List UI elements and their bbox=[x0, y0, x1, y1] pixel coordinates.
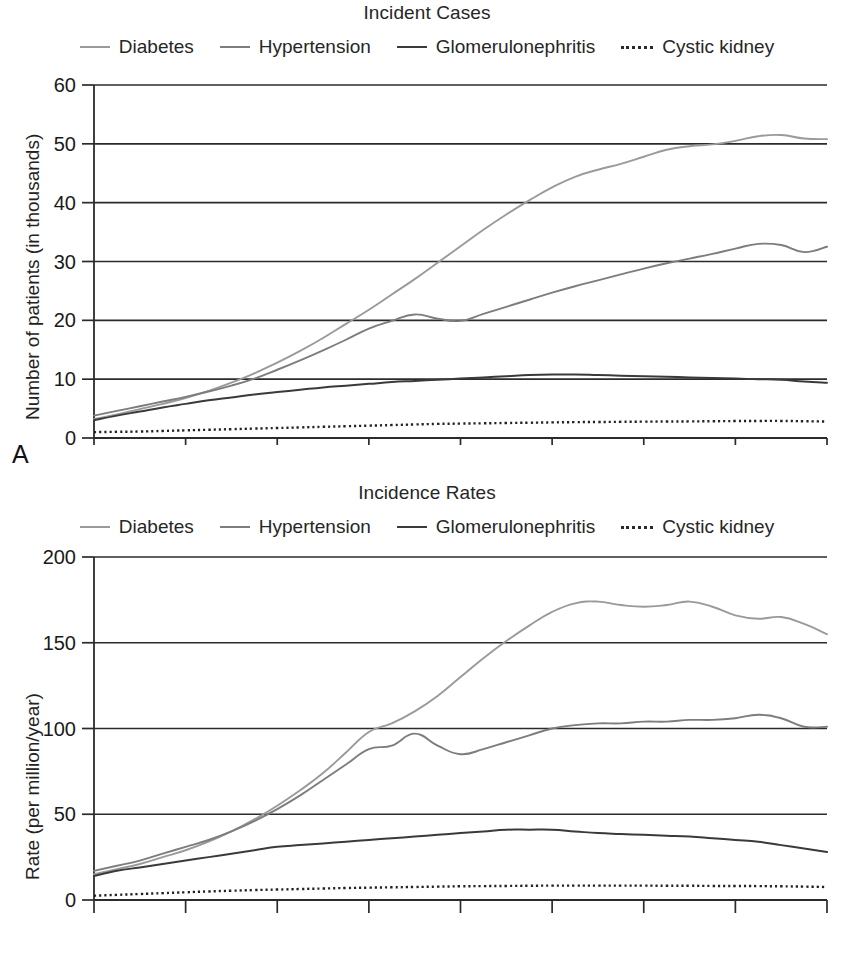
y-tick-label-150: 150 bbox=[43, 632, 76, 654]
legend-label-glomerulonephritis: Glomerulonephritis bbox=[436, 36, 595, 58]
panel-b-legend: Diabetes Hypertension Glomerulonephritis… bbox=[0, 516, 854, 538]
legend-swatch-glomerulonephritis-icon bbox=[397, 46, 427, 48]
legend-label-cystic-kidney: Cystic kidney bbox=[662, 36, 774, 58]
legend-item-glomerulonephritis: Glomerulonephritis bbox=[397, 516, 595, 538]
panel-a: Incident Cases Diabetes Hypertension Glo… bbox=[0, 0, 854, 480]
panel-b-plot: 0501001502001980198419881992199620002004… bbox=[0, 542, 854, 922]
y-tick-label-50: 50 bbox=[54, 803, 76, 825]
y-tick-label-60: 60 bbox=[54, 74, 76, 96]
legend-swatch-hypertension-icon bbox=[220, 46, 250, 48]
y-tick-label-30: 30 bbox=[54, 251, 76, 273]
y-tick-label-50: 50 bbox=[54, 133, 76, 155]
legend-item-glomerulonephritis: Glomerulonephritis bbox=[397, 36, 595, 58]
legend-item-hypertension: Hypertension bbox=[220, 36, 371, 58]
panel-a-plot: 0102030405060198019841988199219962000200… bbox=[0, 70, 854, 445]
panel-a-legend: Diabetes Hypertension Glomerulonephritis… bbox=[0, 36, 854, 58]
legend-item-diabetes: Diabetes bbox=[80, 516, 194, 538]
legend-item-diabetes: Diabetes bbox=[80, 36, 194, 58]
panel-a-svg: 0102030405060198019841988199219962000200… bbox=[0, 70, 854, 445]
y-tick-label-0: 0 bbox=[65, 889, 76, 911]
legend-swatch-glomerulonephritis-icon bbox=[397, 526, 427, 528]
y-tick-label-200: 200 bbox=[43, 546, 76, 568]
legend-swatch-diabetes-icon bbox=[80, 526, 110, 528]
series-line-cystic-kidney bbox=[94, 886, 827, 896]
legend-item-cystic-kidney: Cystic kidney bbox=[621, 516, 774, 538]
y-tick-label-40: 40 bbox=[54, 192, 76, 214]
legend-swatch-hypertension-icon bbox=[220, 526, 250, 528]
series-line-diabetes bbox=[94, 135, 827, 419]
series-line-hypertension bbox=[94, 243, 827, 415]
panel-a-title: Incident Cases bbox=[0, 2, 854, 24]
series-line-hypertension bbox=[94, 715, 827, 871]
legend-swatch-diabetes-icon bbox=[80, 46, 110, 48]
legend-label-cystic-kidney: Cystic kidney bbox=[662, 516, 774, 538]
figure-incident-cases-and-rates: Incident Cases Diabetes Hypertension Glo… bbox=[0, 0, 854, 959]
series-line-glomerulonephritis bbox=[94, 374, 827, 420]
panel-b: Incidence Rates Diabetes Hypertension Gl… bbox=[0, 480, 854, 959]
legend-item-cystic-kidney: Cystic kidney bbox=[621, 36, 774, 58]
panel-b-svg: 0501001502001980198419881992199620002004… bbox=[0, 542, 854, 922]
legend-label-hypertension: Hypertension bbox=[259, 516, 371, 538]
legend-label-hypertension: Hypertension bbox=[259, 36, 371, 58]
series-line-cystic-kidney bbox=[94, 421, 827, 432]
legend-label-diabetes: Diabetes bbox=[119, 516, 194, 538]
y-tick-label-10: 10 bbox=[54, 368, 76, 390]
y-tick-label-100: 100 bbox=[43, 718, 76, 740]
legend-swatch-cystic-kidney-icon bbox=[621, 46, 653, 49]
legend-label-glomerulonephritis: Glomerulonephritis bbox=[436, 516, 595, 538]
panel-b-title: Incidence Rates bbox=[0, 482, 854, 504]
y-tick-label-0: 0 bbox=[65, 427, 76, 445]
legend-label-diabetes: Diabetes bbox=[119, 36, 194, 58]
series-line-glomerulonephritis bbox=[94, 830, 827, 876]
legend-swatch-cystic-kidney-icon bbox=[621, 526, 653, 529]
legend-item-hypertension: Hypertension bbox=[220, 516, 371, 538]
y-tick-label-20: 20 bbox=[54, 309, 76, 331]
